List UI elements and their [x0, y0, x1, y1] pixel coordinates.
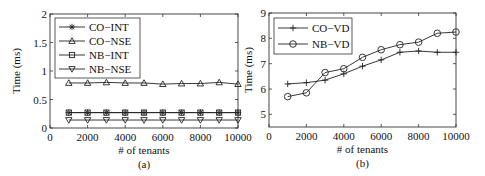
x-tick-label: 0: [47, 131, 53, 143]
legend-label: CO−NSE: [89, 35, 132, 47]
legend-label: NB−VD: [312, 38, 349, 50]
legend-label: CO−INT: [89, 21, 129, 33]
y-tick-label: 9: [261, 7, 267, 19]
x-tick-label: 10000: [442, 130, 470, 142]
y-tick-label: 6: [261, 83, 267, 95]
legend: CO−VDNB−VD: [274, 18, 352, 54]
legend-marker-icon: [69, 24, 75, 30]
x-tick-label: 4000: [333, 130, 356, 142]
y-tick-label: 7: [261, 58, 267, 70]
panel-label: (a): [138, 158, 151, 171]
legend-label: CO−VD: [312, 22, 349, 34]
y-tick-label: 0: [42, 122, 48, 134]
panel-label: (b): [356, 157, 369, 170]
chart-panel-a: 020004000600080001000000.511.52# of tena…: [10, 8, 252, 171]
x-tick-label: 8000: [408, 130, 431, 142]
x-axis-label: # of tenants: [118, 144, 169, 156]
y-tick-label: 2: [42, 8, 48, 20]
x-axis-label: # of tenants: [337, 143, 388, 155]
figure: 020004000600080001000000.511.52# of tena…: [0, 0, 485, 176]
y-tick-label: 5: [261, 108, 267, 120]
x-tick-label: 0: [266, 130, 272, 142]
x-tick-label: 6000: [152, 131, 175, 143]
y-tick-label: 1: [42, 65, 48, 77]
x-tick-label: 2000: [77, 131, 100, 143]
y-tick-label: 8: [261, 32, 267, 44]
x-tick-label: 6000: [370, 130, 393, 142]
legend: CO−INTCO−NSENB−INTNB−NSE: [55, 18, 140, 78]
legend-label: NB−INT: [89, 49, 129, 61]
x-tick-label: 8000: [189, 131, 212, 143]
legend-label: NB−NSE: [89, 63, 132, 75]
x-tick-label: 4000: [114, 131, 137, 143]
chart-panel-b: 020004000600080001000056789# of tenantsT…: [242, 7, 470, 170]
y-axis-label: Time (ms): [10, 48, 23, 94]
y-tick-label: 0.5: [33, 94, 47, 106]
y-tick-label: 1.5: [33, 37, 47, 49]
y-axis-label: Time (ms): [242, 47, 255, 93]
x-tick-label: 2000: [295, 130, 318, 142]
x-tick-label: 10000: [224, 131, 252, 143]
